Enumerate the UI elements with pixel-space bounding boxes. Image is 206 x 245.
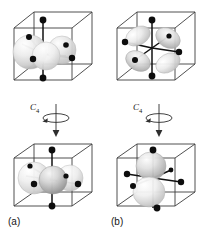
ligand-dot [149, 73, 156, 80]
rotation-label-right: C4 [133, 102, 142, 114]
ligand-dot [154, 205, 161, 212]
panel-label-b: (b) [111, 216, 123, 227]
ligand-dot [30, 56, 36, 62]
rotation-label-left: C4 [30, 102, 39, 114]
c4-axis-arrow-right [137, 104, 181, 138]
ligand-dot [176, 49, 182, 55]
panel-bottom-left: (a) [8, 138, 100, 230]
c4-axis-arrow-left [34, 104, 78, 138]
panel-bottom-left-graphic [8, 138, 100, 230]
ligand-dot [150, 147, 157, 154]
ligand-dot [178, 179, 184, 185]
ligand-dot [63, 42, 69, 48]
arrowhead-down [156, 130, 163, 137]
ligand-dot [75, 181, 81, 187]
rotation-symbol-right: C4 [137, 104, 181, 138]
ligand-dot [122, 39, 128, 45]
ligand-dot [27, 163, 32, 168]
ligand-dot [40, 17, 47, 24]
orbital-lobes [13, 35, 76, 70]
ligand-dot [63, 173, 68, 178]
ligand-dot [130, 183, 136, 189]
panel-top-left-graphic [8, 6, 100, 102]
figure-root: C4 C4 [0, 0, 206, 245]
ligand-dot [69, 55, 75, 61]
ligand-dot [169, 168, 174, 173]
ligand-dot [49, 203, 56, 210]
ligand-dot [40, 75, 47, 82]
rotation-subscript-text: 4 [36, 107, 39, 114]
rotation-symbol-left: C4 [34, 104, 78, 138]
panel-bottom-right-graphic [111, 138, 203, 230]
panel-label-a: (a) [8, 216, 20, 227]
ligand-dot [31, 181, 37, 187]
ligand-dot [132, 57, 138, 63]
panel-top-right-graphic [111, 6, 203, 102]
ligand-dot [149, 17, 156, 24]
ligand-dot [124, 171, 130, 177]
rotation-subscript-text: 4 [139, 107, 142, 114]
panel-top-right [111, 6, 203, 102]
ligand-dot [166, 33, 171, 38]
ligand-dot [49, 147, 56, 154]
panel-top-left [8, 6, 100, 102]
arrowhead-down [53, 130, 60, 137]
panel-bottom-right: (b) [111, 138, 203, 230]
ligand-dot [26, 34, 32, 40]
